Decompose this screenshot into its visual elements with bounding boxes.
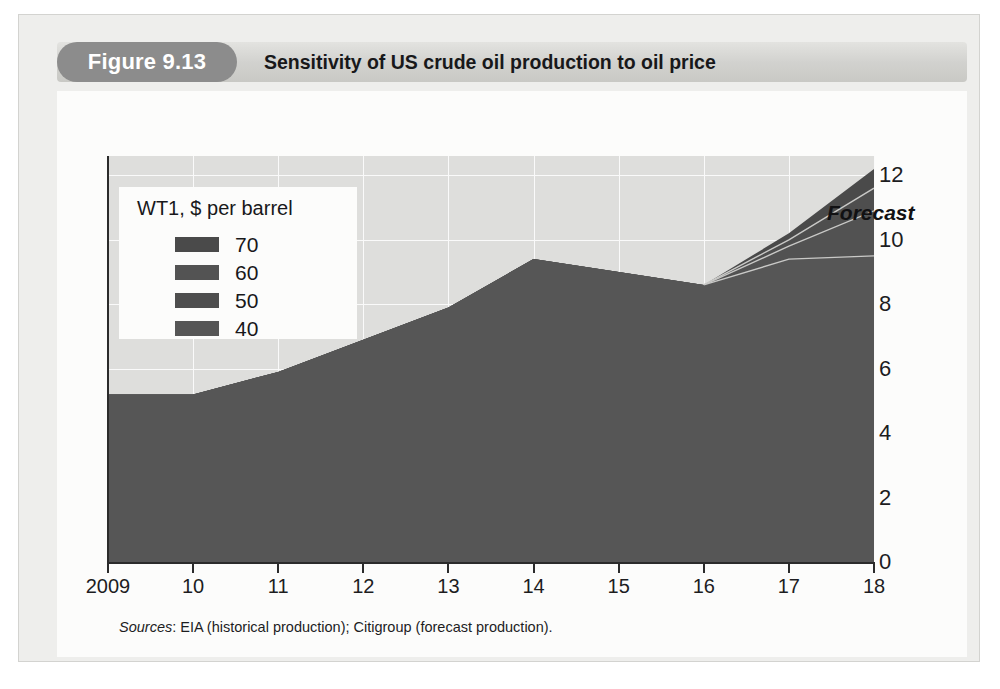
x-tick-label: 12 [352, 575, 374, 598]
legend-swatch [175, 265, 219, 280]
chart-card: 024681012 2009101112131415161718 WT1, $ … [57, 91, 967, 657]
legend-label: 50 [235, 290, 258, 311]
x-tick-mark [277, 563, 279, 573]
x-tick-label: 10 [182, 575, 204, 598]
sources-text: : EIA (historical production); Citigroup… [172, 619, 552, 635]
legend-entry: 60 [175, 259, 258, 285]
y-tick-label: 2 [879, 485, 925, 511]
x-tick-label: 17 [778, 575, 800, 598]
sources-label: Sources [119, 619, 172, 635]
x-tick-label: 11 [268, 575, 289, 598]
x-tick-mark [618, 563, 620, 573]
sources-note: Sources: EIA (historical production); Ci… [119, 619, 553, 635]
y-tick-label: 12 [879, 162, 925, 188]
x-tick-mark [362, 563, 364, 573]
x-tick-label: 18 [863, 575, 885, 598]
x-tick-label: 2009 [86, 575, 131, 598]
legend-entry: 40 [175, 315, 258, 341]
x-axis-line [107, 562, 875, 564]
forecast-annotation: Forecast [827, 201, 915, 225]
x-tick-mark [873, 563, 875, 573]
x-tick-mark [107, 563, 109, 573]
y-tick-label: 6 [879, 356, 925, 382]
x-tick-mark [192, 563, 194, 573]
x-tick-mark [703, 563, 705, 573]
legend-swatch [175, 321, 219, 336]
legend-swatch [175, 237, 219, 252]
y-tick-label: 8 [879, 291, 925, 317]
x-tick-mark [788, 563, 790, 573]
x-tick-mark [533, 563, 535, 573]
figure-frame: Figure 9.13 Sensitivity of US crude oil … [18, 14, 980, 662]
legend-swatch [175, 293, 219, 308]
legend-entry: 50 [175, 287, 258, 313]
x-tick-label: 16 [693, 575, 715, 598]
legend-entry: 70 [175, 231, 258, 257]
x-tick-label: 13 [437, 575, 459, 598]
figure-title: Sensitivity of US crude oil production t… [264, 42, 716, 82]
y-tick-label: 4 [879, 420, 925, 446]
x-tick-label: 14 [522, 575, 544, 598]
y-tick-label: 0 [879, 549, 925, 575]
chart-legend: WT1, $ per barrel 70605040 [119, 187, 357, 339]
y-axis-line [107, 156, 109, 562]
legend-label: 70 [235, 234, 258, 255]
legend-title: WT1, $ per barrel [137, 197, 293, 220]
legend-label: 60 [235, 262, 258, 283]
y-tick-label: 10 [879, 227, 925, 253]
x-tick-label: 15 [608, 575, 630, 598]
legend-label: 40 [235, 318, 258, 339]
x-tick-mark [447, 563, 449, 573]
figure-number-tag: Figure 9.13 [57, 42, 237, 82]
